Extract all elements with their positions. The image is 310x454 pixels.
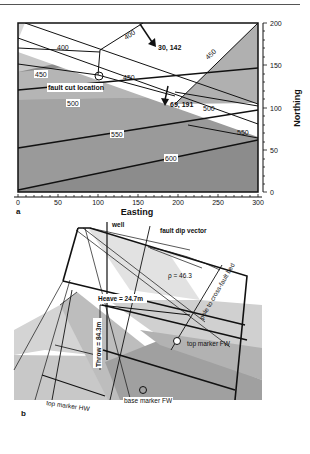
panel-b-label: b bbox=[21, 409, 26, 418]
fault-dip-vector-label: fault dip vector bbox=[160, 227, 207, 235]
well-label: well bbox=[111, 221, 124, 228]
throw-label: Throw = 84.3m bbox=[95, 321, 102, 367]
top-marker-fw-icon bbox=[174, 338, 181, 345]
rho-label: ρ = 46.3 bbox=[168, 272, 192, 280]
base-marker-fw-label: base marker FW bbox=[124, 397, 173, 404]
heave-label: Heave = 24.7m bbox=[98, 295, 143, 302]
top-marker-fw-label: top marker FW bbox=[187, 340, 231, 348]
top-marker-hw-label: top marker HW bbox=[46, 399, 91, 413]
panel-b-diagram: well fault dip vector ρ = 46.3 pole to c… bbox=[0, 0, 310, 454]
